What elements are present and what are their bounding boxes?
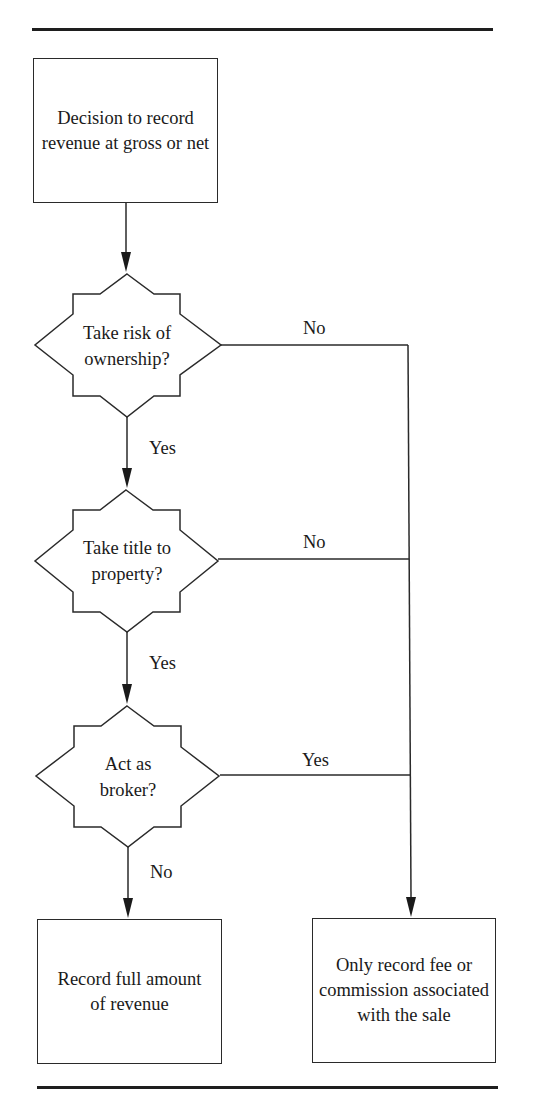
arrowhead-icon bbox=[121, 252, 131, 272]
edge-label-d3-no: No bbox=[150, 862, 173, 882]
start-box: Decision to record revenue at gross or n… bbox=[33, 58, 218, 203]
arrowhead-icon bbox=[406, 897, 416, 917]
edge-label-d2-no: No bbox=[303, 532, 326, 552]
outcome-net-box: Only record fee or commission associated… bbox=[312, 918, 496, 1063]
decision-label-d2: Take title to property? bbox=[70, 533, 184, 589]
arrowhead-icon bbox=[123, 898, 133, 918]
outcome-net-label: Only record fee or commission associated… bbox=[313, 953, 495, 1028]
outcome-gross-label: Record full amount of revenue bbox=[38, 967, 221, 1017]
edge-label-d2-yes: Yes bbox=[149, 653, 176, 673]
arrowhead-icon bbox=[122, 468, 132, 488]
edge-collector-net bbox=[408, 345, 411, 897]
edge-label-d1-yes: Yes bbox=[149, 438, 176, 458]
edge-label-d1-no: No bbox=[303, 318, 326, 338]
arrowhead-icon bbox=[122, 684, 132, 704]
outcome-gross-box: Record full amount of revenue bbox=[37, 919, 222, 1064]
decision-label-d1: Take risk of ownership? bbox=[70, 318, 184, 374]
decision-label-d3: Act as broker? bbox=[78, 749, 178, 805]
edge-label-d3-yes: Yes bbox=[302, 750, 329, 770]
start-label: Decision to record revenue at gross or n… bbox=[34, 106, 217, 156]
